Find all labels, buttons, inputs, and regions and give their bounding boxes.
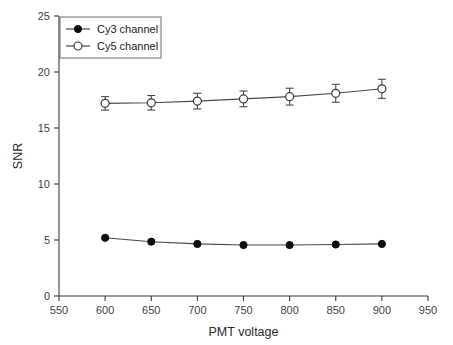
legend-label-1: Cy3 channel xyxy=(97,23,158,35)
x-tick-label: 750 xyxy=(234,304,252,316)
snr-vs-pmt-voltage-chart: 5506006507007508008509009500510152025 Cy… xyxy=(0,0,453,345)
x-tick-label: 650 xyxy=(142,304,160,316)
data-point-cy3 xyxy=(240,241,247,248)
chart-legend: Cy3 channelCy5 channel xyxy=(60,17,161,58)
data-point-cy3 xyxy=(102,234,109,241)
data-point-cy3 xyxy=(378,240,385,247)
y-tick-label: 25 xyxy=(38,10,50,22)
legend-marker-cy5 xyxy=(74,42,82,50)
data-point-cy5 xyxy=(193,97,201,105)
data-point-cy3 xyxy=(148,238,155,245)
data-point-cy5 xyxy=(147,99,155,107)
legend-label-2: Cy5 channel xyxy=(97,40,158,52)
y-tick-label: 20 xyxy=(38,66,50,78)
x-tick-label: 550 xyxy=(50,304,68,316)
data-point-cy5 xyxy=(332,89,340,97)
legend-marker-cy3 xyxy=(74,25,81,32)
x-tick-label: 800 xyxy=(280,304,298,316)
chart-figure: 5506006507007508008509009500510152025 Cy… xyxy=(0,0,453,345)
data-point-cy5 xyxy=(240,95,248,103)
x-axis-title: PMT voltage xyxy=(209,325,279,339)
y-tick-label: 15 xyxy=(38,122,50,134)
x-tick-label: 950 xyxy=(419,304,437,316)
y-tick-label: 0 xyxy=(44,290,50,302)
y-tick-label: 10 xyxy=(38,178,50,190)
x-tick-label: 700 xyxy=(188,304,206,316)
y-tick-label: 5 xyxy=(44,234,50,246)
x-tick-label: 900 xyxy=(373,304,391,316)
data-point-cy3 xyxy=(332,241,339,248)
data-point-cy3 xyxy=(194,240,201,247)
x-tick-label: 850 xyxy=(327,304,345,316)
data-point-cy5 xyxy=(286,93,294,101)
data-point-cy5 xyxy=(101,99,109,107)
data-point-cy5 xyxy=(378,85,386,93)
data-series xyxy=(101,79,386,248)
data-point-cy3 xyxy=(286,241,293,248)
y-axis-title: SNR xyxy=(11,143,25,169)
x-tick-label: 600 xyxy=(96,304,114,316)
